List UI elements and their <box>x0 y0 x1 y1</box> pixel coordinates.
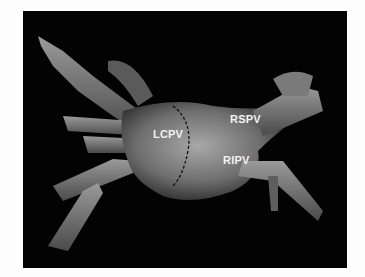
label-ripv: RIPV <box>223 154 249 166</box>
atrium-rendering <box>23 11 347 268</box>
image-panel: LCPV RSPV RIPV <box>23 11 347 268</box>
label-rspv: RSPV <box>230 113 261 125</box>
label-lcpv: LCPV <box>153 128 183 140</box>
